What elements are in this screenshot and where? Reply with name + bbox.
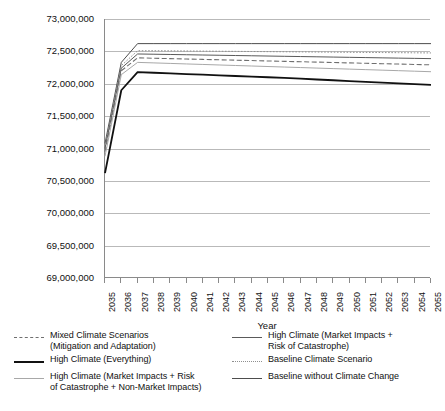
- legend-item[interactable]: High Climate (Everything): [14, 354, 226, 367]
- x-axis-tick-mark: [349, 278, 350, 283]
- legend-column-left: Mixed Climate Scenarios(Mitigation and A…: [14, 330, 226, 408]
- series-line: [105, 44, 431, 144]
- x-axis-tick-mark: [316, 278, 317, 283]
- y-axis-tick-label: 71,000,000: [0, 144, 94, 154]
- y-axis-tick-labels: 73,000,00072,500,00072,000,00071,500,000…: [0, 0, 100, 290]
- x-axis-tick-label: 2036: [124, 292, 133, 312]
- legend-label: High Climate (Everything): [50, 354, 151, 365]
- chart-legend: Mixed Climate Scenarios(Mitigation and A…: [10, 330, 440, 408]
- x-axis-tick-mark: [251, 278, 252, 283]
- legend-column-right: High Climate (Market Impacts +Risk of Ca…: [232, 330, 444, 408]
- x-axis-tick-label: 2042: [222, 292, 231, 312]
- x-axis-tick-mark: [120, 278, 121, 283]
- legend-item[interactable]: High Climate (Market Impacts +Risk of Ca…: [232, 330, 444, 352]
- y-axis-tick-label: 72,000,000: [0, 79, 94, 89]
- legend-item[interactable]: Mixed Climate Scenarios(Mitigation and A…: [14, 330, 226, 352]
- chart-figure: Annual Revenue (US$) 73,000,00072,500,00…: [0, 0, 445, 411]
- legend-label: High Climate (Market Impacts +Risk of Ca…: [268, 330, 393, 352]
- x-axis-tick-mark: [365, 278, 366, 283]
- series-line: [105, 54, 431, 149]
- x-axis-tick-label: 2041: [206, 292, 215, 312]
- y-axis-tick-label: 70,500,000: [0, 176, 94, 186]
- legend-item[interactable]: Baseline Climate Scenario: [232, 354, 444, 367]
- y-axis-tick-label: 73,000,000: [0, 14, 94, 24]
- x-axis-tick-mark: [381, 278, 382, 283]
- series-lines: [105, 19, 431, 278]
- y-axis-tick-label: 69,000,000: [0, 273, 94, 283]
- legend-label: Mixed Climate Scenarios(Mitigation and A…: [50, 330, 156, 352]
- x-axis-tick-mark: [186, 278, 187, 283]
- x-axis-tick-mark: [153, 278, 154, 283]
- x-axis-tick-mark: [300, 278, 301, 283]
- x-axis-tick-label: 2045: [271, 292, 280, 312]
- legend-line-swatch: [14, 374, 44, 384]
- x-axis-tick-label: 2048: [320, 292, 329, 312]
- x-axis-tick-label: 2035: [108, 292, 117, 312]
- x-axis-tick-label: 2044: [255, 292, 264, 312]
- x-axis-tick-label: 2040: [190, 292, 199, 312]
- x-axis-tick-label: 2047: [304, 292, 313, 312]
- x-axis-tick-label: 2038: [157, 292, 166, 312]
- x-axis-tick-mark: [283, 278, 284, 283]
- y-axis-tick-label: 69,500,000: [0, 241, 94, 251]
- legend-label: Baseline Climate Scenario: [268, 354, 372, 365]
- x-axis-tick-label: 2054: [418, 292, 427, 312]
- x-axis-tick-label: 2055: [434, 292, 443, 312]
- x-axis-tick-label: 2039: [173, 292, 182, 312]
- legend-item[interactable]: Baseline without Climate Change: [232, 371, 444, 384]
- x-axis-tick-mark: [104, 278, 105, 283]
- legend-line-swatch: [14, 333, 44, 343]
- x-axis-tick-mark: [397, 278, 398, 283]
- x-axis-tick-mark: [234, 278, 235, 283]
- legend-label: High Climate (Market Impacts + Riskof Ca…: [50, 371, 202, 393]
- series-line: [105, 51, 431, 147]
- series-line: [105, 72, 431, 173]
- y-axis-tick-label: 70,000,000: [0, 208, 94, 218]
- x-axis-tick-label: 2046: [287, 292, 296, 312]
- x-axis-tick-label: 2051: [369, 292, 378, 312]
- x-axis-tick-mark: [414, 278, 415, 283]
- x-axis-tick-mark: [202, 278, 203, 283]
- legend-label: Baseline without Climate Change: [268, 371, 399, 382]
- legend-line-swatch: [14, 357, 44, 367]
- x-axis-tick-mark: [137, 278, 138, 283]
- x-axis-tick-labels: 2035203620372038203920402041204220432044…: [104, 286, 430, 322]
- x-axis-tick-mark: [169, 278, 170, 283]
- x-axis-tick-label: 2043: [238, 292, 247, 312]
- y-axis-tick-label: 72,500,000: [0, 46, 94, 56]
- legend-line-swatch: [232, 357, 262, 367]
- legend-line-swatch: [232, 374, 262, 384]
- y-axis-tick-label: 71,500,000: [0, 111, 94, 121]
- x-axis-tick-label: 2053: [401, 292, 410, 312]
- x-axis-tick-label: 2050: [353, 292, 362, 312]
- x-axis-tick-label: 2049: [336, 292, 345, 312]
- x-axis-tick-mark: [332, 278, 333, 283]
- x-axis-tick-mark: [218, 278, 219, 283]
- x-axis-tick-label: 2037: [141, 292, 150, 312]
- legend-item[interactable]: High Climate (Market Impacts + Riskof Ca…: [14, 371, 226, 393]
- legend-line-swatch: [232, 333, 262, 343]
- plot-area: [104, 19, 430, 278]
- x-axis-tick-mark: [267, 278, 268, 283]
- x-axis-tick-label: 2052: [385, 292, 394, 312]
- x-axis-tick-mark: [430, 278, 431, 283]
